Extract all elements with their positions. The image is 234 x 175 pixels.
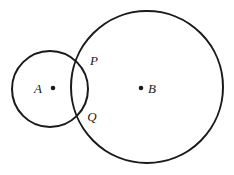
label-circle-a: A — [33, 81, 42, 96]
center-dot-a — [51, 86, 56, 91]
geometry-canvas: A B P Q — [0, 0, 234, 175]
circle-b-outline — [71, 11, 223, 163]
label-circle-b: B — [148, 81, 156, 96]
label-intersection-p: P — [89, 53, 98, 68]
geometry-figure: A B P Q — [0, 0, 234, 175]
circle-a-outline — [12, 51, 88, 127]
label-intersection-q: Q — [87, 109, 97, 124]
center-dot-b — [139, 86, 144, 91]
